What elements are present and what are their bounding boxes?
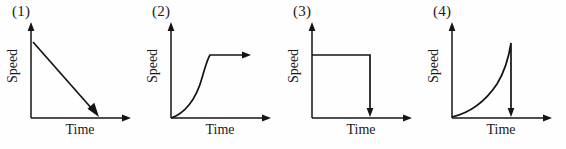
graph-panel-4: (4) Speed Time bbox=[421, 0, 561, 149]
speed-curve-4 bbox=[452, 43, 511, 117]
y-axis-arrowhead-4 bbox=[449, 22, 456, 31]
speed-curve-2 bbox=[171, 55, 243, 118]
plot-area-1 bbox=[0, 0, 140, 149]
curve-arrowhead-2 bbox=[242, 52, 251, 59]
graph-panel-1: (1) Speed Time bbox=[0, 0, 140, 149]
speed-curve-3 bbox=[312, 55, 370, 108]
x-axis-arrowhead-1 bbox=[122, 115, 131, 122]
x-axis-arrowhead-3 bbox=[403, 115, 412, 122]
y-axis-arrowhead-2 bbox=[168, 22, 175, 31]
y-axis-arrowhead-3 bbox=[309, 22, 316, 31]
graph-panel-3: (3) Speed Time bbox=[281, 0, 421, 149]
curve-arrowhead-3 bbox=[367, 108, 374, 117]
x-axis-arrowhead-4 bbox=[543, 115, 552, 122]
speed-curve-1 bbox=[33, 42, 93, 110]
graph-panel-2: (2) Speed Time bbox=[140, 0, 280, 149]
plot-area-4 bbox=[421, 0, 561, 149]
plot-area-3 bbox=[281, 0, 421, 149]
x-axis-arrowhead-2 bbox=[262, 115, 271, 122]
plot-area-2 bbox=[140, 0, 280, 149]
curve-arrowhead-4 bbox=[508, 108, 515, 117]
speed-time-graph-figure: (1) Speed Time (2) Speed Time (3) Speed … bbox=[0, 0, 566, 149]
y-axis-arrowhead-1 bbox=[28, 22, 35, 31]
